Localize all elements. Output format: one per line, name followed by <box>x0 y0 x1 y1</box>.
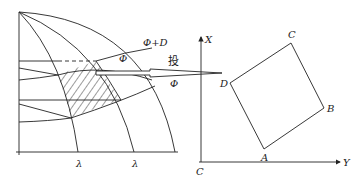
origin-label: C <box>196 166 204 177</box>
projection-arrow <box>96 69 222 77</box>
label-phi-lower: Φ <box>170 78 178 89</box>
diagonal-line-2 <box>19 104 71 118</box>
map-projection-diagram: Φ+D Φ Φ λ λ 投 X Y C C B A D <box>0 0 362 183</box>
label-phi-upper: Φ <box>119 53 127 64</box>
vertex-c-label: C <box>288 29 296 40</box>
coordinate-panel <box>199 37 340 162</box>
y-axis-label: Y <box>343 157 351 168</box>
vertex-a-label: A <box>260 152 268 163</box>
vertex-b-label: B <box>326 103 334 114</box>
vertex-d-label: D <box>219 78 228 89</box>
diagonal-line-1 <box>19 68 58 75</box>
graticule-panel <box>16 12 178 155</box>
x-axis-label: X <box>204 34 213 45</box>
label-phi-plus-d: Φ+D <box>143 37 168 48</box>
label-lambda-2: λ <box>131 158 138 169</box>
label-lambda-1: λ <box>75 158 82 169</box>
projected-quadrilateral <box>230 43 324 149</box>
hatched-region <box>58 61 121 118</box>
arrow-label: 投 <box>168 54 179 68</box>
